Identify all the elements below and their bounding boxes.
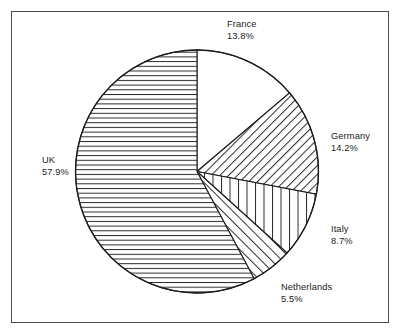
slice-label-uk-value: 57.9% xyxy=(42,167,69,179)
slice-label-uk-name: UK xyxy=(42,155,55,165)
slice-label-netherlands-name: Netherlands xyxy=(281,282,332,292)
slice-label-germany: Germany 14.2% xyxy=(331,131,370,154)
slice-label-uk: UK 57.9% xyxy=(42,155,69,178)
slice-label-france: France 13.8% xyxy=(227,19,257,42)
slice-label-netherlands-value: 5.5% xyxy=(281,294,332,306)
slice-label-france-value: 13.8% xyxy=(227,31,257,43)
chart-page: France 13.8% Germany 14.2% Italy 8.7% Ne… xyxy=(0,0,402,335)
slice-label-italy-name: Italy xyxy=(331,224,349,234)
slice-label-germany-name: Germany xyxy=(331,131,370,141)
slice-label-netherlands: Netherlands 5.5% xyxy=(281,282,332,305)
pie-slice-group xyxy=(76,50,319,293)
slice-label-germany-value: 14.2% xyxy=(331,143,370,155)
slice-label-italy: Italy 8.7% xyxy=(331,224,353,247)
slice-label-france-name: France xyxy=(227,19,257,29)
slice-label-italy-value: 8.7% xyxy=(331,236,353,248)
